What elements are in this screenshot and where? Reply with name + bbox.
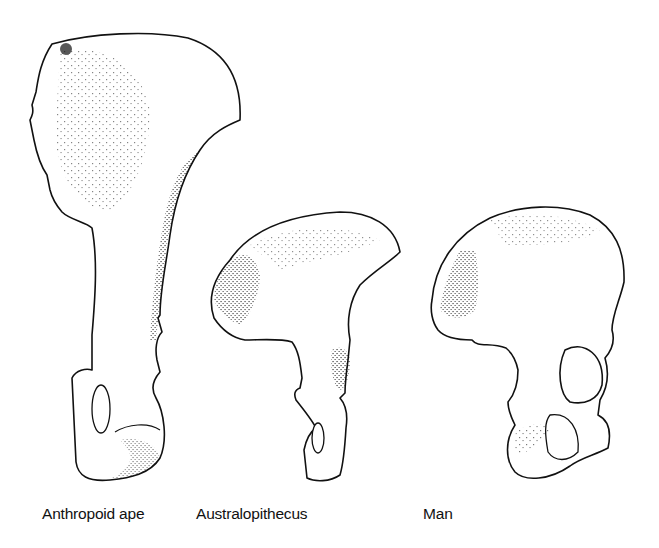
ape-foramen — [92, 385, 110, 433]
australopithecus-pelvis-illustration — [200, 200, 420, 490]
australopithecus-foramen — [312, 423, 324, 453]
caption-man: Man — [423, 505, 453, 523]
caption-australopithecus: Australopithecus — [196, 505, 307, 523]
human-pelvis-illustration — [420, 190, 659, 490]
caption-anthropoid-ape: Anthropoid ape — [42, 505, 144, 523]
